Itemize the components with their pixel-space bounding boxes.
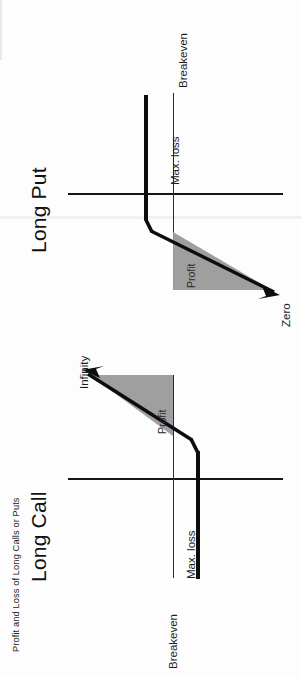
payoff-overlay-long-call bbox=[0, 339, 301, 678]
label-breakeven-long-call: Breakeven bbox=[168, 614, 180, 669]
label-infinity-long-call: Infinity bbox=[79, 356, 91, 389]
chart-long-put: Long Put Breakeven Max. loss Profit Zero bbox=[0, 0, 301, 339]
label-breakeven-long-put: Breakeven bbox=[178, 33, 190, 88]
label-zero-long-put: Zero bbox=[281, 303, 293, 327]
label-max-loss-long-put: Max. loss bbox=[170, 136, 182, 185]
chart-long-call: Long Call Infinity Profit Max. loss Brea… bbox=[0, 339, 301, 678]
payoff-bend-long-put bbox=[146, 219, 153, 232]
figure-page: Profit and Loss of Long Calls or Puts Lo… bbox=[0, 0, 301, 678]
label-max-loss-long-call: Max. loss bbox=[186, 530, 198, 579]
label-profit-long-put: Profit bbox=[186, 263, 197, 288]
payoff-bend-long-call bbox=[191, 439, 198, 452]
label-profit-long-call: Profit bbox=[157, 409, 168, 434]
payoff-overlay-long-put bbox=[0, 0, 301, 339]
